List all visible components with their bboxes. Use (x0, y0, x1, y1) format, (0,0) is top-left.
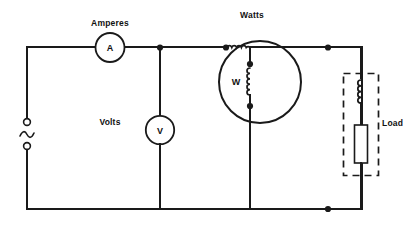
volts-label: Volts (99, 117, 120, 127)
ammeter: A (96, 33, 125, 62)
sine-wave-icon (20, 132, 34, 138)
junction-dot-load-bottom (325, 206, 331, 212)
load-resistor-icon (355, 125, 368, 163)
load-block (344, 48, 379, 210)
schematic-svg: A Amperes V Volts (0, 0, 417, 226)
wattmeter-potential-coil-icon (247, 68, 250, 95)
junction-dot-wattmeter-potential-top (247, 61, 253, 67)
ac-source-top-terminal (24, 119, 31, 126)
voltmeter: V (146, 116, 174, 144)
ac-source (20, 119, 34, 150)
circuit-diagram-canvas: A Amperes V Volts (0, 0, 417, 226)
watts-label: Watts (240, 10, 264, 20)
amperes-label: Amperes (91, 18, 129, 28)
load-inductor-icon (358, 80, 361, 103)
voltmeter-symbol: V (157, 126, 163, 136)
wattmeter: W (219, 41, 301, 209)
ac-source-bottom-terminal (24, 143, 31, 150)
ammeter-symbol: A (107, 43, 114, 53)
junction-dot-load-top (325, 44, 331, 50)
load-label: Load (382, 118, 403, 128)
wattmeter-symbol: W (232, 77, 241, 87)
